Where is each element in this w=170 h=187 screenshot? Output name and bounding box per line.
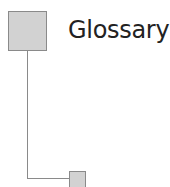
glossary-title: Glossary	[68, 16, 169, 44]
connector-vertical-line	[27, 50, 28, 179]
child-node-square	[69, 171, 86, 187]
root-node-square	[8, 11, 47, 51]
connector-horizontal-line	[27, 178, 70, 179]
